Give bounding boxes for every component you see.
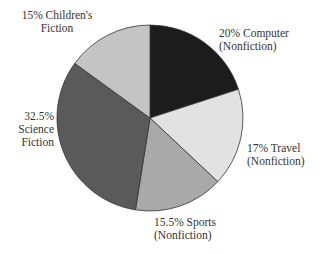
label-children: 15% Children's Fiction [14, 9, 100, 35]
label-science-line1: 32.5% [14, 110, 54, 123]
label-sports-line2: (Nonfiction) [154, 229, 216, 242]
label-science-line3: Fiction [14, 136, 54, 149]
label-sports-line1: 15.5% Sports [154, 216, 216, 229]
label-sports: 15.5% Sports (Nonfiction) [154, 216, 216, 242]
label-computer-line2: (Nonfiction) [219, 40, 289, 53]
label-computer-line1: 20% Computer [219, 27, 289, 40]
label-children-line1: 15% Children's [14, 9, 100, 22]
label-travel-line1: 17% Travel [247, 142, 304, 155]
label-travel-line2: (Nonfiction) [247, 155, 304, 168]
label-science: 32.5% Science Fiction [14, 110, 54, 149]
label-travel: 17% Travel (Nonfiction) [247, 142, 304, 168]
label-children-line2: Fiction [14, 22, 100, 35]
label-science-line2: Science [14, 123, 54, 136]
label-computer: 20% Computer (Nonfiction) [219, 27, 289, 53]
